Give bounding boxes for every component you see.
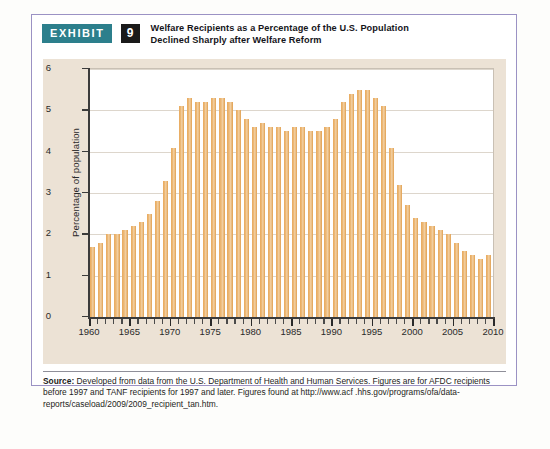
y-tick-label: 0 <box>29 310 51 321</box>
source-note: Source: Developed from data from the U.S… <box>43 376 506 410</box>
x-tick-mark-minor <box>469 319 470 324</box>
x-tick-mark-minor <box>485 319 486 324</box>
x-tick-label: 1970 <box>153 326 187 337</box>
bar <box>163 181 168 317</box>
bar <box>308 131 313 317</box>
x-tick-mark-major <box>493 319 495 326</box>
x-tick-mark-minor <box>121 319 122 324</box>
x-tick-mark-minor <box>436 319 437 324</box>
source-text: Developed from data from the U.S. Depart… <box>43 376 490 409</box>
bar <box>462 251 467 317</box>
x-tick-mark-minor <box>275 319 276 324</box>
bar <box>147 214 152 317</box>
bar <box>155 201 160 317</box>
bar <box>236 110 241 317</box>
x-tick-mark-major <box>89 319 91 326</box>
bar <box>365 90 370 317</box>
bar <box>397 185 402 317</box>
exhibit-title: Welfare Recipients as a Percentage of th… <box>151 23 409 46</box>
x-tick-mark-major <box>453 319 455 326</box>
bar <box>341 102 346 317</box>
bar <box>252 127 257 317</box>
bar <box>260 123 265 317</box>
bar <box>454 243 459 317</box>
bar <box>478 259 483 317</box>
bar <box>381 106 386 317</box>
x-tick-mark-major <box>412 319 414 326</box>
x-tick-mark-minor <box>356 319 357 324</box>
bar <box>171 148 176 317</box>
y-axis-title: Percentage of population <box>70 78 81 288</box>
source-divider <box>43 371 506 372</box>
bar <box>268 127 273 317</box>
x-tick-mark-minor <box>445 319 446 324</box>
y-tick-label: 6 <box>29 62 51 73</box>
x-tick-mark-minor <box>364 319 365 324</box>
bar <box>438 230 443 317</box>
x-tick-label: 1995 <box>355 326 389 337</box>
y-tick-mark <box>82 109 88 110</box>
x-tick-mark-minor <box>283 319 284 324</box>
bar-series <box>89 69 493 317</box>
x-tick-mark-minor <box>146 319 147 324</box>
x-tick-label: 1985 <box>274 326 308 337</box>
bar <box>446 234 451 317</box>
y-tick-mark <box>82 68 88 69</box>
x-tick-mark-minor <box>113 319 114 324</box>
y-tick-mark <box>82 151 88 152</box>
x-tick-mark-major <box>251 319 253 326</box>
y-tick-label: 2 <box>29 227 51 238</box>
x-tick-mark-minor <box>218 319 219 324</box>
bar <box>349 94 354 317</box>
bar <box>405 205 410 317</box>
x-tick-mark-minor <box>428 319 429 324</box>
x-tick-mark-minor <box>178 319 179 324</box>
x-tick-mark-minor <box>420 319 421 324</box>
x-tick-mark-minor <box>388 319 389 324</box>
bar <box>284 131 289 317</box>
exhibit-number-badge: 9 <box>121 24 140 43</box>
y-tick-mark <box>82 192 88 193</box>
x-tick-label: 1980 <box>234 326 268 337</box>
y-tick-label: 3 <box>29 186 51 197</box>
exhibit-badge: EXHIBIT <box>42 24 112 43</box>
x-tick-mark-minor <box>162 319 163 324</box>
exhibit-header: EXHIBIT 9 Welfare Recipients as a Percen… <box>32 15 516 57</box>
bar <box>316 131 321 317</box>
bar <box>333 119 338 317</box>
x-tick-mark-minor <box>477 319 478 324</box>
x-tick-label: 1975 <box>193 326 227 337</box>
bar <box>131 226 136 317</box>
plot-area <box>88 68 494 318</box>
bar <box>324 127 329 317</box>
y-tick-mark <box>82 275 88 276</box>
x-tick-mark-minor <box>267 319 268 324</box>
bar <box>219 98 224 317</box>
x-tick-mark-minor <box>396 319 397 324</box>
x-tick-mark-minor <box>154 319 155 324</box>
x-tick-mark-major <box>331 319 333 326</box>
exhibit-title-line1: Welfare Recipients as a Percentage of th… <box>151 23 409 35</box>
x-tick-mark-major <box>210 319 212 326</box>
chart-panel: Percentage of population 0123456 1960196… <box>43 59 506 364</box>
bar <box>211 98 216 317</box>
x-tick-mark-major <box>372 319 374 326</box>
x-tick-mark-minor <box>380 319 381 324</box>
bar <box>195 102 200 317</box>
x-tick-mark-minor <box>105 319 106 324</box>
x-tick-label: 1965 <box>112 326 146 337</box>
x-tick-mark-minor <box>186 319 187 324</box>
x-tick-mark-minor <box>299 319 300 324</box>
bar <box>187 98 192 317</box>
bar <box>486 255 491 317</box>
x-tick-mark-minor <box>339 319 340 324</box>
x-tick-mark-minor <box>315 319 316 324</box>
bar <box>98 243 103 317</box>
bar <box>470 255 475 317</box>
x-tick-label: 2005 <box>436 326 470 337</box>
bar <box>292 127 297 317</box>
exhibit-page: EXHIBIT 9 Welfare Recipients as a Percen… <box>0 0 550 449</box>
bar <box>421 222 426 317</box>
x-tick-label: 2000 <box>395 326 429 337</box>
bar <box>413 218 418 317</box>
